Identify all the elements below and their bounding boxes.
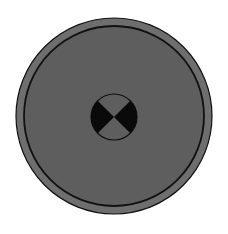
- figure-canvas: [0, 0, 228, 234]
- crash-test-target-icon: [91, 94, 137, 140]
- disc-figure: [0, 0, 228, 234]
